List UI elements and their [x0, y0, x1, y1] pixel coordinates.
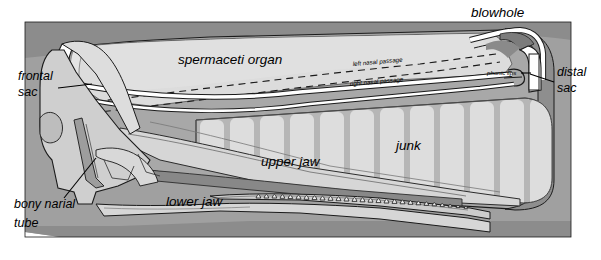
label-frontal-sac-line1: frontal — [18, 69, 54, 83]
label-lower-jaw: lower jaw — [166, 194, 224, 209]
whale-anatomy-figure: blowhole spermaceti organ frontal sac di… — [0, 0, 601, 260]
label-frontal-sac-line2: sac — [18, 85, 38, 99]
anatomy-diagram-canvas: blowhole spermaceti organ frontal sac di… — [0, 0, 601, 260]
label-spermaceti-organ: spermaceti organ — [178, 52, 282, 67]
label-distal-sac-line1: distal — [557, 65, 587, 79]
label-upper-jaw: upper jaw — [261, 154, 321, 169]
label-junk: junk — [394, 138, 422, 153]
label-blowhole: blowhole — [471, 5, 524, 20]
label-distal-sac-line2: sac — [557, 81, 577, 95]
label-bony-narial-tube-line1: bony narial — [14, 197, 76, 211]
label-bony-narial-tube-line2: tube — [14, 216, 38, 230]
label-phonic-lips: phonic lips — [486, 69, 516, 76]
